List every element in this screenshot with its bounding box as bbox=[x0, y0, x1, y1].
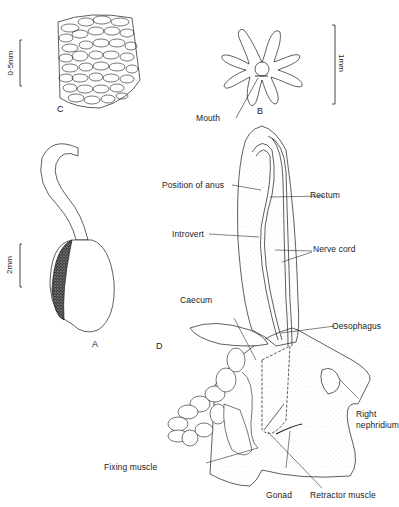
label-right-nephridium-line2: nephridium bbox=[356, 421, 399, 430]
panel-c-letter: C bbox=[57, 105, 64, 114]
label-mouth: Mouth bbox=[196, 114, 220, 123]
panel-b-tentacles bbox=[222, 25, 335, 118]
panel-d-letter: D bbox=[156, 342, 163, 351]
label-oesophagus: Oesophagus bbox=[332, 322, 381, 331]
scale-bar-c: 0·5mm bbox=[7, 48, 15, 78]
label-position-of-anus: Position of anus bbox=[162, 181, 224, 190]
panel-a-letter: A bbox=[92, 340, 98, 349]
label-retractor-muscle: Retractor muscle bbox=[310, 491, 376, 500]
label-caecum: Caecum bbox=[180, 296, 212, 305]
label-right-nephridium-line1: Right bbox=[356, 410, 376, 419]
label-introvert: Introvert bbox=[172, 230, 204, 239]
panel-b-letter: B bbox=[257, 107, 263, 116]
panel-a-whole-animal bbox=[20, 144, 114, 332]
label-fixing-muscle: Fixing muscle bbox=[104, 463, 157, 472]
label-rectum: Rectum bbox=[310, 191, 340, 200]
scale-bar-b: 1mm bbox=[337, 48, 345, 78]
label-nerve-cord: Nerve cord bbox=[313, 245, 356, 254]
label-gonad: Gonad bbox=[266, 491, 292, 500]
scale-bar-a: 2mm bbox=[6, 250, 14, 280]
panel-c-papillae bbox=[20, 15, 140, 108]
